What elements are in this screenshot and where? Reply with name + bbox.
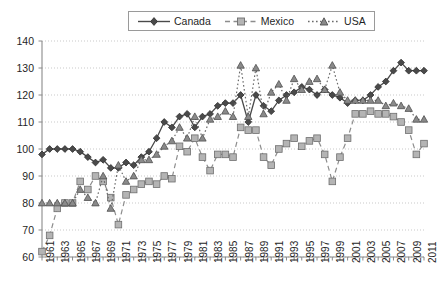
- data-point: [283, 97, 290, 104]
- data-point: [169, 175, 176, 182]
- data-point: [54, 146, 61, 153]
- data-point: [344, 135, 351, 142]
- data-point: [314, 135, 321, 142]
- x-tick-label: 2009: [413, 241, 423, 263]
- data-point: [367, 108, 374, 115]
- x-tick-label: 2005: [382, 241, 392, 263]
- data-point: [184, 148, 191, 155]
- data-point: [176, 124, 183, 131]
- data-point: [206, 116, 213, 123]
- data-point: [398, 119, 405, 126]
- data-point: [62, 146, 69, 153]
- data-point: [337, 154, 344, 161]
- x-tick-label: 2011: [428, 241, 438, 263]
- x-tick-label: 1967: [92, 241, 102, 263]
- y-tick-label: 110: [10, 117, 34, 128]
- data-point: [214, 151, 221, 158]
- data-point: [268, 89, 275, 96]
- data-point: [184, 111, 191, 118]
- data-point: [306, 138, 313, 145]
- data-point: [290, 75, 297, 82]
- data-point: [222, 151, 229, 158]
- data-point: [421, 140, 428, 147]
- data-point: [268, 162, 275, 169]
- data-point: [276, 146, 283, 153]
- x-tick-label: 1989: [260, 241, 270, 263]
- data-point: [199, 135, 206, 142]
- data-point: [329, 62, 336, 69]
- data-point: [313, 75, 320, 82]
- x-tick-label: 1993: [290, 241, 300, 263]
- data-point: [260, 154, 267, 161]
- data-point: [229, 113, 236, 120]
- data-point: [168, 137, 175, 144]
- series-mexico: [39, 108, 428, 255]
- data-point: [192, 135, 199, 142]
- data-point: [69, 146, 76, 153]
- x-tick-label: 1985: [229, 241, 239, 263]
- data-point: [397, 102, 404, 109]
- x-tick-label: 1973: [138, 241, 148, 263]
- x-tick-label: 2001: [352, 241, 362, 263]
- data-point: [383, 111, 390, 118]
- x-tick-label: 1997: [321, 241, 331, 263]
- data-point: [237, 62, 244, 69]
- x-tick-label: 1991: [275, 241, 285, 263]
- data-point: [92, 199, 99, 206]
- y-tick-label: 130: [10, 63, 34, 74]
- data-point: [153, 135, 160, 142]
- data-point: [123, 192, 130, 199]
- data-point: [291, 135, 298, 142]
- data-point: [253, 127, 260, 134]
- data-point: [375, 111, 382, 118]
- data-point: [222, 108, 229, 115]
- x-tick-label: 1965: [77, 241, 87, 263]
- y-tick-label: 60: [10, 252, 34, 263]
- data-point: [336, 89, 343, 96]
- data-point: [352, 111, 359, 118]
- data-point: [146, 178, 153, 185]
- x-tick-label: 1995: [306, 241, 316, 263]
- data-series-layer: [38, 59, 427, 255]
- data-point: [222, 100, 229, 107]
- data-point: [390, 113, 397, 120]
- series-line: [42, 111, 424, 251]
- data-point: [382, 102, 389, 109]
- x-tick-label: 1961: [46, 241, 56, 263]
- data-point: [138, 181, 145, 188]
- data-point: [153, 151, 160, 158]
- data-point: [237, 124, 244, 131]
- data-point: [92, 173, 99, 180]
- data-point: [85, 186, 92, 193]
- data-point: [405, 105, 412, 112]
- x-tick-label: 1983: [214, 241, 224, 263]
- x-tick-label: 2003: [367, 241, 377, 263]
- x-tick-label: 2007: [397, 241, 407, 263]
- y-tick-label: 90: [10, 171, 34, 182]
- data-point: [199, 154, 206, 161]
- data-point: [298, 143, 305, 150]
- data-point: [77, 178, 84, 185]
- data-point: [115, 221, 122, 228]
- data-point: [214, 113, 221, 120]
- y-tick-label: 140: [10, 36, 34, 47]
- x-tick-label: 1975: [153, 241, 163, 263]
- data-point: [122, 178, 129, 185]
- x-tick-label: 1977: [168, 241, 178, 263]
- data-point: [329, 178, 336, 185]
- x-tick-label: 1969: [107, 241, 117, 263]
- data-point: [161, 143, 168, 150]
- data-point: [130, 172, 137, 179]
- data-point: [245, 127, 252, 134]
- data-point: [176, 143, 183, 150]
- data-point: [420, 116, 427, 123]
- data-point: [283, 140, 290, 147]
- y-tick-label: 80: [10, 198, 34, 209]
- data-point: [130, 186, 137, 193]
- data-point: [115, 162, 122, 169]
- data-point: [191, 113, 198, 120]
- data-point: [183, 135, 190, 142]
- y-tick-label: 120: [10, 90, 34, 101]
- data-point: [145, 156, 152, 163]
- series-usa: [38, 62, 427, 212]
